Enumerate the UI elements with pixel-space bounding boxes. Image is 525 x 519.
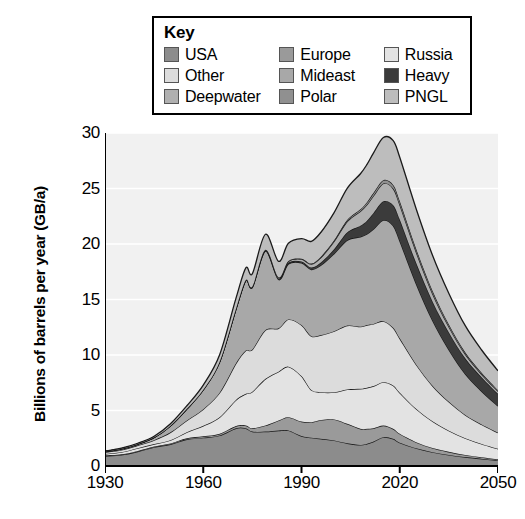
legend-label-polar: Polar: [300, 88, 336, 106]
legend-swatch-other: [164, 68, 179, 83]
legend-item-pngl: PNGL: [384, 88, 462, 106]
legend-item-usa: USA: [164, 46, 279, 64]
legend-row: Other Mideast Heavy: [164, 65, 462, 86]
plot-area: [105, 133, 498, 466]
legend-item-russia: Russia: [384, 46, 462, 64]
y-tick-label: 15: [64, 291, 100, 308]
chart-legend: Key USA Europe Russia Other Mideast: [152, 16, 472, 115]
legend-row: Deepwater Polar PNGL: [164, 86, 462, 107]
x-tick-label: 1990: [272, 474, 332, 491]
legend-label-usa: USA: [185, 46, 217, 64]
legend-row: USA Europe Russia: [164, 44, 462, 65]
x-tick-label: 1960: [173, 474, 233, 491]
legend-item-polar: Polar: [279, 88, 384, 106]
y-axis-title: Billions of barrels per year (GB/a): [31, 114, 49, 494]
legend-swatch-polar: [279, 89, 294, 104]
oil-production-chart-figure: Key USA Europe Russia Other Mideast: [0, 0, 525, 519]
y-tick-label: 10: [64, 346, 100, 363]
legend-label-europe: Europe: [300, 46, 350, 64]
legend-label-pngl: PNGL: [405, 88, 448, 106]
legend-swatch-mideast: [279, 68, 294, 83]
legend-swatch-pngl: [384, 89, 399, 104]
legend-swatch-russia: [384, 47, 399, 62]
legend-item-other: Other: [164, 67, 279, 85]
legend-swatch-usa: [164, 47, 179, 62]
legend-item-heavy: Heavy: [384, 67, 462, 85]
x-tick-label: 2020: [370, 474, 430, 491]
legend-title: Key: [164, 23, 462, 43]
legend-label-mideast: Mideast: [300, 67, 355, 85]
legend-label-russia: Russia: [405, 46, 453, 64]
y-tick-label: 0: [64, 457, 100, 474]
legend-swatch-heavy: [384, 68, 399, 83]
y-tick-label: 25: [64, 180, 100, 197]
legend-label-other: Other: [185, 67, 224, 85]
legend-label-heavy: Heavy: [405, 67, 449, 85]
legend-item-deepwater: Deepwater: [164, 88, 279, 106]
stacked-area-svg: [105, 133, 498, 475]
y-tick-label: 20: [64, 235, 100, 252]
y-tick-label: 5: [64, 402, 100, 419]
legend-label-deepwater: Deepwater: [185, 88, 261, 106]
x-tick-label: 1930: [75, 474, 135, 491]
y-tick-label: 30: [64, 124, 100, 141]
x-tick-label: 2050: [468, 474, 525, 491]
legend-swatch-europe: [279, 47, 294, 62]
legend-item-mideast: Mideast: [279, 67, 384, 85]
x-axis-tick-labels: 19301960199020202050: [0, 474, 525, 504]
y-axis-tick-labels: 051015202530: [55, 0, 100, 519]
legend-item-europe: Europe: [279, 46, 384, 64]
legend-swatch-deepwater: [164, 89, 179, 104]
